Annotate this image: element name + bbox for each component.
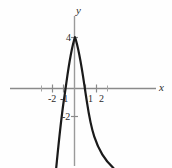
x-axis-label: x <box>159 82 164 93</box>
x-tick-label-minus2: -2 <box>48 94 56 104</box>
y-axis-label: y <box>76 5 81 16</box>
x-tick-label-plus2: 2 <box>99 94 104 104</box>
y-tick-label-minus2: -2 <box>62 112 70 122</box>
parabola-graph-figure: y x -2 -1 1 2 4 -2 <box>0 0 172 168</box>
x-tick-label-plus1: 1 <box>88 94 93 104</box>
y-tick-label-4: 4 <box>66 33 71 43</box>
x-tick-label-minus1: -1 <box>60 94 68 104</box>
graph-canvas <box>0 0 172 168</box>
